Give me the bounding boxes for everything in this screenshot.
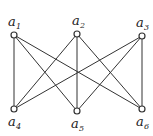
node-a6 — [139, 106, 145, 112]
node-a4 — [11, 106, 17, 112]
edge-a3-a5 — [77, 36, 142, 111]
label-a4: a — [8, 114, 16, 129]
label-a3: a — [136, 15, 144, 30]
node-a1 — [11, 32, 17, 38]
label-sub-a1: 1 — [16, 22, 21, 31]
node-a3 — [139, 33, 145, 39]
label-sub-a6: 6 — [144, 122, 149, 131]
label-sub-a5: 5 — [79, 124, 84, 133]
bipartite-graph: a1a2a3a4a5a6 — [0, 0, 153, 136]
node-a2 — [74, 31, 80, 37]
label-sub-a3: 3 — [144, 23, 149, 32]
label-sub-a4: 4 — [15, 122, 21, 131]
label-a6: a — [136, 114, 144, 129]
label-a5: a — [71, 116, 79, 131]
node-a5 — [74, 108, 80, 114]
label-a2: a — [72, 13, 80, 28]
label-a1: a — [8, 14, 16, 29]
edge-a2-a6 — [77, 34, 142, 109]
label-sub-a2: 2 — [79, 21, 85, 30]
edge-a2-a4 — [14, 34, 77, 109]
edges — [14, 34, 142, 111]
edge-a1-a5 — [14, 35, 77, 111]
